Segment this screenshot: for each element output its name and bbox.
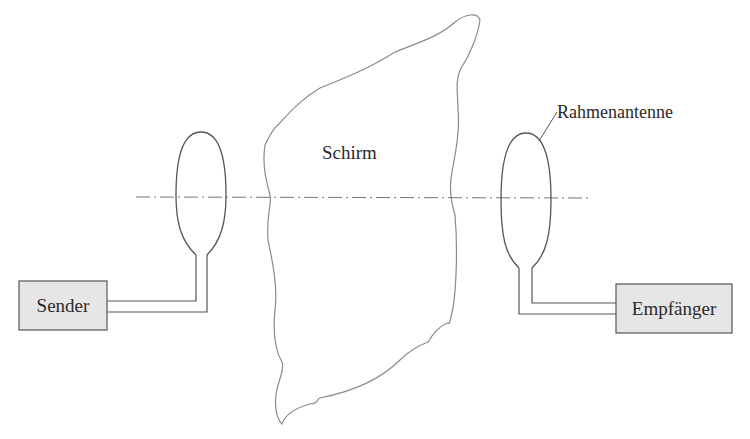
left-feed-line-outer bbox=[107, 255, 207, 312]
sender-box: Sender bbox=[19, 281, 107, 330]
center-axis-line bbox=[136, 197, 592, 198]
shield-label: Schirm bbox=[322, 142, 377, 163]
antenna-label: Rahmenantenne bbox=[557, 102, 673, 122]
right-feed-line-inner bbox=[532, 268, 616, 303]
right-feed-line-outer bbox=[519, 268, 616, 314]
diagram-canvas: Sender Empfänger Rahmenantenne Schirm bbox=[0, 0, 750, 439]
left-loop-antenna bbox=[176, 132, 226, 255]
antenna-label-leader bbox=[539, 112, 557, 141]
receiver-label: Empfänger bbox=[632, 298, 717, 319]
right-loop-antenna bbox=[501, 133, 551, 268]
sender-label: Sender bbox=[37, 295, 90, 316]
shield-outline bbox=[264, 15, 480, 424]
left-feed-line-inner bbox=[107, 255, 196, 301]
receiver-box: Empfänger bbox=[616, 284, 732, 333]
